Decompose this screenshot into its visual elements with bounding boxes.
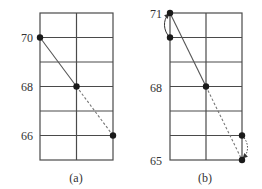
caption-a: (a) [61, 172, 91, 184]
point-66 [239, 132, 245, 138]
y-label-70: 70 [9, 32, 33, 44]
y-label-68: 68 [138, 82, 162, 94]
point-66 [110, 132, 116, 138]
y-label-66: 66 [9, 130, 33, 142]
y-label-65: 65 [138, 155, 162, 167]
point-68 [203, 83, 209, 89]
point-71 [167, 10, 173, 16]
point-70 [37, 34, 43, 40]
right-arc-arrow [242, 136, 248, 158]
y-label-71: 71 [138, 8, 162, 20]
solid-segment [170, 13, 206, 87]
point-70 [167, 34, 173, 40]
point-68 [73, 83, 79, 89]
caption-b: (b) [190, 172, 220, 184]
y-label-68: 68 [9, 81, 33, 93]
point-65 [239, 157, 245, 163]
left-arc-arrow [164, 15, 170, 38]
dashed-segment [206, 87, 242, 161]
figure [0, 0, 262, 189]
